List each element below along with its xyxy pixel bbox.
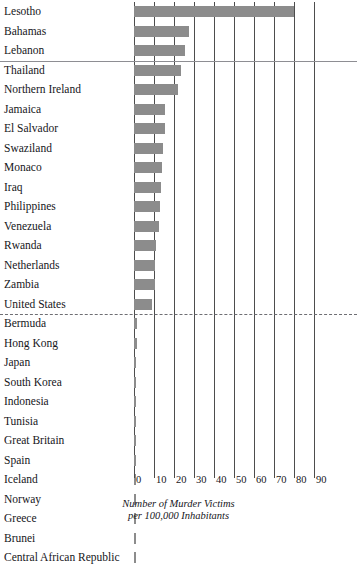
category-label: Iceland — [4, 470, 129, 490]
bar — [134, 455, 136, 466]
bar-row — [134, 295, 314, 315]
x-tick-mark — [314, 472, 315, 478]
bar — [134, 552, 136, 563]
category-label: Iraq — [4, 178, 129, 198]
group-separator-dashed — [0, 314, 357, 315]
x-tick-mark — [274, 472, 275, 478]
bar — [134, 45, 185, 56]
category-label: Northern Ireland — [4, 80, 129, 100]
x-axis-caption-line1: Number of Murder Victims — [122, 498, 234, 509]
bar-row — [134, 41, 314, 61]
bar — [134, 162, 162, 173]
bar-row — [134, 314, 314, 334]
bar-row — [134, 236, 314, 256]
bar — [134, 435, 136, 446]
bar-row — [134, 139, 314, 159]
category-label: Thailand — [4, 61, 129, 81]
category-label: Tunisia — [4, 412, 129, 432]
bar-row — [134, 158, 314, 178]
x-axis-caption-line2: per 100,000 Inhabitants — [0, 510, 357, 522]
x-tick-label: 30 — [196, 474, 207, 486]
bar-row — [134, 548, 314, 568]
bar-row — [134, 197, 314, 217]
category-label: Central African Republic — [4, 548, 129, 568]
bar — [134, 240, 156, 251]
bar — [134, 221, 159, 232]
category-label: Rwanda — [4, 236, 129, 256]
category-label: Jamaica — [4, 100, 129, 120]
group-separator-solid — [0, 61, 357, 62]
bar — [134, 104, 165, 115]
category-label: United States — [4, 295, 129, 315]
bar — [134, 143, 163, 154]
category-label: South Korea — [4, 373, 129, 393]
bar-row — [134, 80, 314, 100]
x-tick-mark — [234, 472, 235, 478]
bar-row — [134, 334, 314, 354]
bar — [134, 201, 160, 212]
bar-row — [134, 529, 314, 549]
x-tick-label: 20 — [176, 474, 187, 486]
category-label: Brunei — [4, 529, 129, 549]
x-tick-label: 40 — [216, 474, 227, 486]
bar-row — [134, 256, 314, 276]
bar-row — [134, 2, 314, 22]
category-label: Bermuda — [4, 314, 129, 334]
bar — [134, 260, 155, 271]
x-tick-label: 80 — [296, 474, 307, 486]
bar — [134, 26, 189, 37]
bar-row — [134, 412, 314, 432]
bar — [134, 318, 137, 329]
bar — [134, 299, 152, 310]
x-tick-label: 10 — [156, 474, 167, 486]
bar — [134, 279, 155, 290]
x-tick-mark — [154, 472, 155, 478]
category-label: Netherlands — [4, 256, 129, 276]
x-tick-mark — [174, 472, 175, 478]
x-axis-ticks: 0102030405060708090 — [134, 472, 334, 488]
bar-row — [134, 431, 314, 451]
x-tick-label: 60 — [256, 474, 267, 486]
bar-row — [134, 373, 314, 393]
x-tick-mark — [294, 472, 295, 478]
category-label: Monaco — [4, 158, 129, 178]
bar-row — [134, 22, 314, 42]
plot-area — [134, 2, 314, 472]
bar — [134, 338, 137, 349]
x-axis-caption: Number of Murder Victims per 100,000 Inh… — [0, 498, 357, 521]
bar — [134, 182, 161, 193]
bar-row — [134, 275, 314, 295]
x-tick-mark — [134, 472, 135, 478]
bar — [134, 123, 165, 134]
category-label: Spain — [4, 451, 129, 471]
gridline-90 — [314, 2, 315, 472]
category-label: El Salvador — [4, 119, 129, 139]
x-tick-label: 90 — [316, 474, 327, 486]
category-label: Japan — [4, 353, 129, 373]
x-tick-mark — [214, 472, 215, 478]
bar — [134, 533, 136, 544]
bar-row — [134, 100, 314, 120]
bar — [134, 84, 178, 95]
category-label: Indonesia — [4, 392, 129, 412]
bar-row — [134, 119, 314, 139]
category-label: Great Britain — [4, 431, 129, 451]
category-label: Bahamas — [4, 22, 129, 42]
category-label: Hong Kong — [4, 334, 129, 354]
bar-rows — [134, 2, 314, 472]
bar-row — [134, 353, 314, 373]
bar — [134, 377, 136, 388]
bar — [134, 357, 136, 368]
bar — [134, 396, 136, 407]
bar — [134, 65, 181, 76]
category-label-column: LesothoBahamasLebanonThailandNorthern Ir… — [0, 2, 132, 472]
category-label: Venezuela — [4, 217, 129, 237]
category-label: Lesotho — [4, 2, 129, 22]
x-tick-label: 0 — [136, 474, 141, 486]
category-label: Philippines — [4, 197, 129, 217]
x-tick-label: 50 — [236, 474, 247, 486]
bar — [134, 416, 136, 427]
category-label: Zambia — [4, 275, 129, 295]
bar-row — [134, 178, 314, 198]
